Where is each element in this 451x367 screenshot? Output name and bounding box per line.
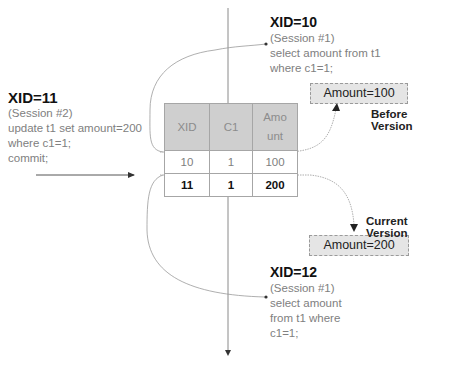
session1-first-line: select amount from t1: [270, 46, 381, 61]
session1-first-line: where c1=1;: [270, 61, 381, 76]
header-amount: Amo unt: [253, 104, 298, 151]
mvcc-table: XID C1 Amo unt 10 1 100 11 1 200: [164, 103, 298, 197]
session1-second-line: select amount: [270, 296, 342, 311]
session2-line: where c1=1;: [8, 136, 142, 151]
session2-block: XID=11 (Session #2) update t1 set amount…: [8, 89, 142, 166]
cell-amount: 200: [253, 174, 298, 197]
session1-second-line: from t1 where: [270, 311, 342, 326]
session1-first-title: XID=10: [270, 14, 381, 31]
session1-first-block: XID=10 (Session #1) select amount from t…: [270, 14, 381, 76]
before-version-box: Amount=100: [310, 83, 408, 104]
header-xid: XID: [165, 104, 210, 151]
cell-c1: 1: [210, 174, 253, 197]
current-version-label: Current Version: [366, 215, 451, 239]
session1-second-line: (Session #1): [270, 281, 342, 296]
session2-title: XID=11: [8, 89, 142, 106]
session1-second-line: c1=1;: [270, 326, 342, 341]
cell-xid: 11: [165, 174, 210, 197]
header-c1: C1: [210, 104, 253, 151]
table-row: 11 1 200: [165, 174, 298, 197]
session1-second-block: XID=12 (Session #1) select amount from t…: [270, 264, 342, 341]
before-version-label: Before Version: [371, 108, 451, 132]
cell-amount: 100: [253, 151, 298, 174]
session2-line: commit;: [8, 151, 142, 166]
session1-first-line: (Session #1): [270, 31, 381, 46]
session1-second-title: XID=12: [270, 264, 342, 281]
table-header-row: XID C1 Amo unt: [165, 104, 298, 151]
session2-line: update t1 set amount=200: [8, 121, 142, 136]
cell-xid: 10: [165, 151, 210, 174]
timeline-arrowhead-icon: [225, 350, 231, 356]
table-row: 10 1 100: [165, 151, 298, 174]
session2-line: (Session #2): [8, 106, 142, 121]
cell-c1: 1: [210, 151, 253, 174]
